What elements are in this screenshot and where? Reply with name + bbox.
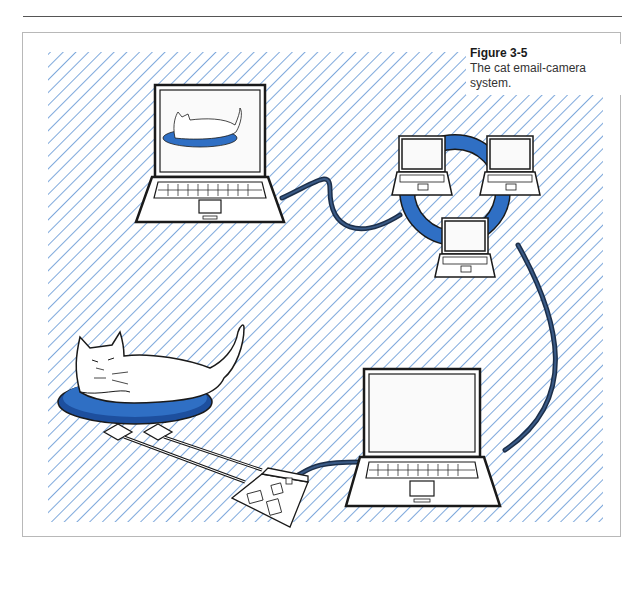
hatch-background [48,52,603,522]
figure-caption-text: The cat email-camera system. [470,61,630,91]
figure-caption: Figure 3-5 The cat email-camera system. [466,44,634,95]
figure-label: Figure 3-5 [470,46,630,61]
ring-laptop-bottom [435,218,495,277]
home-laptop [346,369,500,506]
viewer-laptop [136,85,284,222]
ring-laptop-left [392,136,452,195]
ring-laptop-right [480,136,540,195]
